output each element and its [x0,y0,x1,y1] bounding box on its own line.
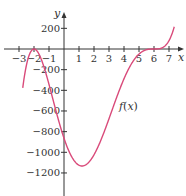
x-tick-label: −1 [42,53,57,64]
function-curve [23,27,175,166]
curve-label-close: ) [134,100,138,113]
x-tick-label: 7 [166,53,172,64]
y-axis-label: y [53,7,61,20]
x-axis-label: x [178,51,185,64]
y-tick-label: −1200 [26,167,60,178]
x-tick-label: 6 [151,53,157,64]
axes: −3−2−11234567 200−200−400−600−800−1000−1… [4,7,185,196]
x-tick-label: 3 [106,53,112,64]
function-plot: −3−2−11234567 200−200−400−600−800−1000−1… [0,0,186,196]
y-ticks: 200−200−400−600−800−1000−1200 [26,23,67,179]
y-tick-label: 200 [41,23,60,34]
x-tick-label: 1 [76,53,82,64]
x-tick-label: 4 [121,53,127,64]
x-tick-label: −3 [12,53,27,64]
y-tick-label: −1000 [26,147,60,158]
x-tick-label: 2 [91,53,97,64]
y-axis-arrow-icon [62,12,67,18]
y-tick-label: −800 [33,126,60,137]
curve-label: f(x) [118,100,138,113]
y-tick-label: −400 [33,85,60,96]
